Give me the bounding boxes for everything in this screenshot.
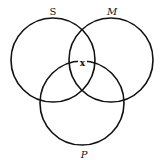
x-mark: x (80, 58, 86, 68)
label-s: S (50, 6, 57, 17)
venn-diagram: S M P x (0, 0, 162, 160)
label-m: M (106, 6, 118, 17)
label-p: P (80, 149, 88, 160)
circle-p (40, 61, 124, 145)
